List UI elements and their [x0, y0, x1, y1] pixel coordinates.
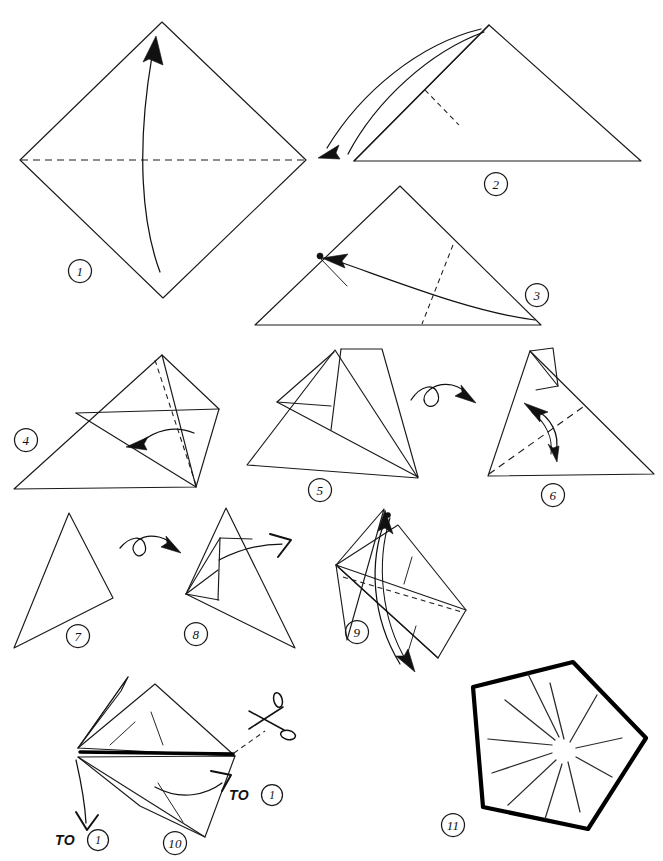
step-5-badge: 5: [309, 479, 332, 502]
step-7-slim-triangle: [14, 513, 113, 648]
step-5-small-flap-edge: [277, 402, 418, 477]
step-1-badge: 1: [69, 260, 92, 283]
step-9-kite-mid-edge: [336, 565, 466, 610]
step-1-group: 1: [20, 22, 306, 298]
step-11-badge-label: 11: [447, 818, 460, 833]
step-2-crease: [425, 90, 459, 125]
scissors-handle-lower: [280, 729, 297, 741]
burst-line-8: [492, 753, 552, 773]
step-8-outer-triangle: [186, 508, 295, 648]
step-4-fold-arrow-shaft: [140, 429, 194, 443]
burst-line-11: [528, 674, 559, 737]
pentagon-starburst: [488, 674, 622, 819]
step-3-triangle-outline: [255, 186, 541, 325]
step-11-badge: 11: [442, 814, 465, 837]
step-11-group: 11: [442, 662, 647, 837]
origami-diagram-canvas: 1 2 3: [0, 0, 663, 861]
step-5-flap-inner-edge: [331, 349, 341, 430]
burst-line-2: [570, 695, 597, 742]
step-6-badge-label: 6: [550, 488, 557, 503]
burst-line-7: [508, 760, 556, 805]
step-5-small-flap: [277, 352, 334, 406]
callout-to-one-left: TO 1: [55, 830, 109, 851]
to-one-right-text: TO: [229, 787, 249, 803]
step-4-fold-arrow-head: [126, 437, 148, 450]
step-10-badge-label: 10: [168, 836, 182, 851]
step-9-crease-mark-lower: [408, 626, 416, 652]
step-6-double-arrow-shaft-2: [532, 412, 551, 454]
burst-line-4: [576, 757, 612, 777]
step-10-crease-inner: [110, 722, 135, 745]
step-2-badge: 2: [485, 173, 508, 196]
step-9-crease-mark-upper: [404, 557, 412, 584]
step-8-open-arrow-head: [270, 534, 291, 557]
origami-instruction-sheet: 1 2 3: [0, 0, 663, 861]
burst-line-5: [568, 762, 580, 812]
step-4-badge: 4: [15, 429, 38, 452]
step-9-group: 9: [336, 509, 466, 672]
step-8-pleat-d: [186, 570, 218, 594]
step-4-group: 4: [14, 355, 219, 489]
step-10-upper-panel: [78, 684, 235, 756]
step-4-outer-triangle: [14, 355, 196, 489]
step-1-fold-arrow-shaft: [143, 56, 160, 272]
step-2-badge-label: 2: [493, 177, 500, 192]
step-10-lower-left-edge: [78, 757, 205, 837]
step-5-tall-flap: [341, 349, 418, 477]
step-6-arrow-head-lower: [548, 444, 559, 462]
step-6-badge: 6: [542, 484, 565, 507]
to-one-left-text: TO: [55, 832, 75, 848]
step-10-group: TO 1 TO 1 10: [55, 677, 296, 855]
step-9-arrow-head-bottom: [396, 649, 415, 672]
step-3-badge: 3: [526, 284, 549, 307]
step-4-flap-diagonal: [76, 413, 196, 487]
scissors-icon: [249, 692, 296, 741]
step-10-cut-guideline: [234, 731, 265, 753]
step-5-group: 5: [247, 349, 476, 502]
burst-line-9: [488, 739, 552, 745]
step-1-badge-label: 1: [77, 264, 84, 279]
step-10-to-one-left-arrow-head: [76, 812, 98, 830]
step-7-badge-label: 7: [75, 629, 82, 644]
step-2-group: 2: [318, 25, 641, 196]
step-2-fold-arrow-outer: [327, 29, 481, 148]
step-8-pleat-b: [220, 538, 252, 539]
step-10-crease-upper: [151, 712, 163, 745]
step-2-fold-arrow-head: [318, 145, 340, 159]
step-2-left-edge-flap: [354, 25, 489, 161]
step-8-badge-label: 8: [193, 627, 200, 642]
step-8-pleat-a: [186, 538, 220, 594]
burst-line-6: [545, 764, 562, 819]
step-3-group: 3: [255, 186, 549, 325]
step-7-badge: 7: [67, 625, 90, 648]
burst-line-1: [550, 683, 564, 739]
step-8-badge: 8: [185, 623, 208, 646]
step-9-double-arrow-shaft-b: [382, 518, 407, 662]
step-1-fold-arrow-head: [143, 36, 163, 65]
step-8-pleat-c: [218, 538, 220, 600]
step-3-badge-label: 3: [533, 288, 541, 303]
step-7-turn-over-icon: [120, 536, 181, 556]
final-pentagon-outline: [473, 662, 646, 829]
burst-line-3: [576, 738, 622, 748]
step-7-group: 7: [14, 513, 181, 648]
scissors-blade-b: [249, 711, 284, 730]
step-3-crease: [422, 245, 453, 324]
step-2-triangle-outline: [354, 25, 641, 161]
step-6-group: 6: [488, 348, 654, 507]
to-one-left-badge-label: 1: [95, 834, 101, 846]
step-5-turn-over-icon: [411, 385, 476, 407]
burst-line-10: [505, 700, 555, 740]
callout-to-one-right: TO 1: [229, 785, 283, 806]
step-9-reference-point-dot: [385, 512, 390, 517]
scissors-blade-a: [249, 707, 283, 729]
scissors-handle-upper: [272, 692, 284, 709]
step-4-badge-label: 4: [23, 433, 30, 448]
step-5-badge-label: 5: [317, 483, 324, 498]
step-4-flap-edge-left: [76, 409, 219, 413]
step-4-crease: [155, 360, 196, 485]
to-one-right-badge-label: 1: [269, 789, 275, 801]
step-10-bold-cut-edge: [80, 752, 233, 754]
step-3-fold-arrow-head: [322, 254, 348, 268]
step-8-group: 8: [185, 508, 296, 648]
